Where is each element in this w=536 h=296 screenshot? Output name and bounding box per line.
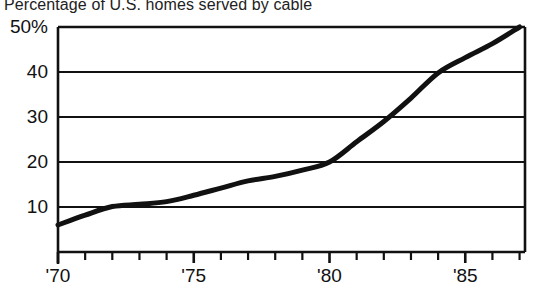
x-tick-label: '75 xyxy=(164,266,224,285)
data-series-line xyxy=(58,27,520,225)
x-tick-label: '70 xyxy=(28,266,88,285)
y-tick-label: 40 xyxy=(0,62,48,81)
plot-area xyxy=(0,0,536,296)
x-axis-ticks xyxy=(58,252,520,263)
x-tick-label: '85 xyxy=(435,266,495,285)
y-tick-label: 20 xyxy=(0,152,48,171)
y-tick-label: 10 xyxy=(0,197,48,216)
y-tick-label: 30 xyxy=(0,107,48,126)
x-tick-label: '80 xyxy=(300,266,360,285)
cable-penetration-chart: Percentage of U.S. homes served by cable… xyxy=(0,0,536,296)
y-tick-label: 50% xyxy=(0,17,48,36)
gridlines xyxy=(58,27,525,207)
